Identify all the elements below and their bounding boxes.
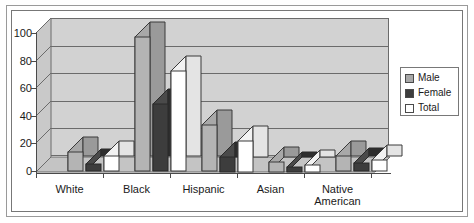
y-tick-mark-100 <box>31 33 37 34</box>
legend-item-total: Total <box>405 101 455 115</box>
y-tick-mark-80 <box>31 61 37 62</box>
x-axis-label-white: White <box>36 183 103 195</box>
legend-label-male: Male <box>418 73 440 83</box>
gridline-60 <box>50 73 389 74</box>
legend-swatch-total-icon <box>405 104 414 113</box>
y-tick-mark-20 <box>31 143 37 144</box>
x-tick-mark-2 <box>170 173 171 178</box>
y-tick-label-100: 100 <box>14 28 32 39</box>
x-tick-mark-3 <box>237 173 238 178</box>
x-label-line: Asian <box>257 183 285 195</box>
x-tick-mark-1 <box>103 173 104 178</box>
x-label-line: Black <box>123 183 150 195</box>
chart-legend: Male Female Total <box>400 67 459 116</box>
y-axis-labels: 100 80 60 40 20 0 <box>4 18 32 178</box>
y-tick-mark-40 <box>31 116 37 117</box>
legend-item-female: Female <box>405 86 455 100</box>
legend-swatch-female-icon <box>405 89 414 98</box>
x-axis-line <box>36 173 391 174</box>
x-label-line: Hispanic <box>182 183 224 195</box>
x-label-line: Native <box>304 183 371 195</box>
x-axis-label-black: Black <box>103 183 170 195</box>
x-tick-mark-4 <box>304 173 305 178</box>
legend-swatch-male-icon <box>405 74 414 83</box>
legend-label-total: Total <box>418 103 439 113</box>
gridline-100 <box>50 18 389 19</box>
x-tick-mark-0 <box>36 173 37 178</box>
x-tick-mark-5 <box>371 173 372 178</box>
chart-screenshot: 100 80 60 40 20 0 White Black Hispanic <box>0 0 474 223</box>
y-axis-line <box>36 32 37 178</box>
legend-item-male: Male <box>405 71 455 85</box>
gridline-40 <box>50 101 389 102</box>
plot-area: 100 80 60 40 20 0 White Black Hispanic <box>36 18 391 178</box>
y-tick-mark-60 <box>31 88 37 89</box>
x-label-line: American <box>304 195 371 207</box>
x-axis-label-asian: Asian <box>237 183 304 195</box>
x-axis-label-hispanic: Hispanic <box>170 183 237 195</box>
x-axis-label-native-american: Native American <box>304 183 371 207</box>
x-label-line: White <box>55 183 83 195</box>
gridline-80 <box>50 46 389 47</box>
legend-label-female: Female <box>418 88 451 98</box>
y-tick-mark-0 <box>31 171 37 172</box>
